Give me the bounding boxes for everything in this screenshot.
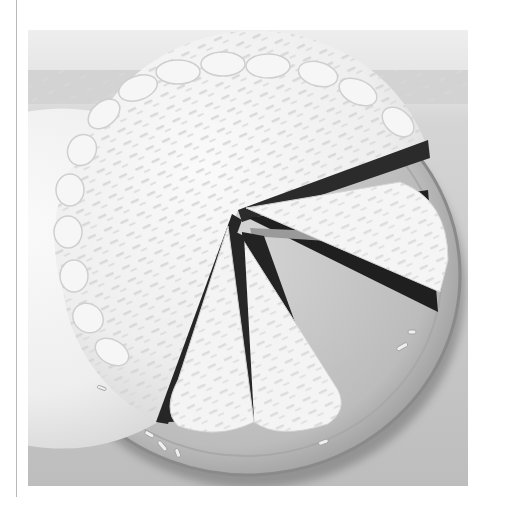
- margin-rule: [16, 0, 17, 497]
- cake-photo: [28, 30, 468, 486]
- cake-illustration: [28, 30, 468, 486]
